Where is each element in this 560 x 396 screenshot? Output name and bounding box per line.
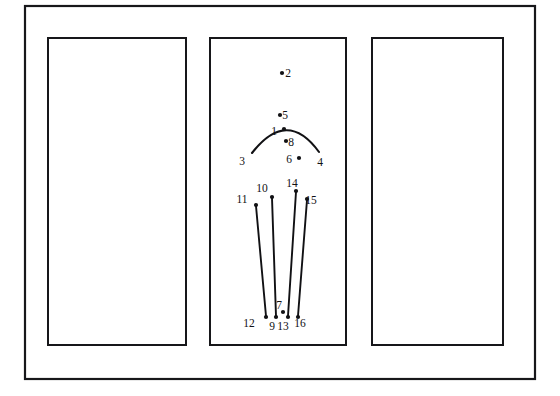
ref-label-3: 3 — [239, 155, 245, 167]
ref-label-16: 16 — [294, 317, 306, 329]
ref-label-10: 10 — [256, 182, 268, 194]
ref-label-14: 14 — [286, 177, 298, 189]
ref-label-12: 12 — [243, 317, 255, 329]
ref-label-15: 15 — [305, 194, 317, 206]
ref-label-2: 2 — [285, 67, 291, 79]
ref-label-11: 11 — [236, 193, 247, 205]
ref-dot-2 — [280, 71, 284, 75]
ref-dot-1 — [282, 127, 286, 131]
ref-label-8: 8 — [288, 136, 294, 148]
ref-label-13: 13 — [277, 320, 289, 332]
left-panel — [48, 38, 186, 345]
figure-drawing: 12345678910111213141516 — [0, 0, 560, 396]
ref-label-7: 7 — [276, 299, 282, 311]
ref-dot-10 — [270, 195, 274, 199]
right-panel — [372, 38, 503, 345]
ref-label-6: 6 — [286, 153, 292, 165]
ref-label-4: 4 — [317, 156, 323, 168]
ref-dot-14 — [294, 189, 298, 193]
ref-dot-12 — [264, 315, 268, 319]
ref-dot-6 — [297, 156, 301, 160]
ref-dot-9 — [274, 315, 278, 319]
ref-label-5: 5 — [282, 109, 288, 121]
ref-dot-13 — [286, 315, 290, 319]
ref-label-9: 9 — [269, 320, 275, 332]
figure-canvas: 12345678910111213141516 — [0, 0, 560, 396]
ref-dot-11 — [254, 203, 258, 207]
ref-label-1: 1 — [271, 125, 277, 137]
